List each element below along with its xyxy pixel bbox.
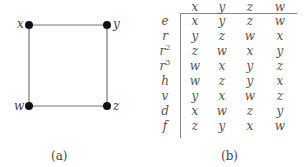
- table-cell: x: [185, 105, 205, 117]
- caption-b: (b): [221, 150, 238, 162]
- table-cell: x: [185, 15, 205, 27]
- table-cell: z: [212, 75, 232, 87]
- column-header: y: [212, 1, 232, 13]
- square-graph: x y z w (a): [0, 0, 150, 167]
- row-label: d: [155, 105, 175, 117]
- column-header: z: [240, 1, 260, 13]
- node-x: [25, 21, 33, 29]
- table-cell: z: [240, 15, 260, 27]
- row-label: h: [155, 75, 175, 87]
- row-label: r2: [155, 45, 175, 57]
- table-cell: y: [240, 60, 260, 72]
- table-cell: z: [270, 60, 290, 72]
- table-cell: w: [270, 120, 290, 132]
- node-label-w: w: [14, 100, 24, 112]
- table-cell: z: [212, 30, 232, 42]
- row-label: e: [155, 15, 175, 27]
- table-cell: x: [240, 120, 260, 132]
- node-y: [103, 21, 111, 29]
- table-cell: y: [240, 75, 260, 87]
- caption-a: (a): [51, 150, 68, 162]
- node-label-x: x: [17, 18, 24, 30]
- table-cell: x: [212, 90, 232, 102]
- column-header: w: [270, 1, 290, 13]
- row-label-base: r: [162, 29, 168, 43]
- table-cell: w: [270, 15, 290, 27]
- table-cell: z: [185, 120, 205, 132]
- row-label-exponent: 2: [165, 43, 170, 52]
- table-cell: y: [185, 90, 205, 102]
- table-cell: w: [240, 90, 260, 102]
- table-cell: y: [212, 120, 232, 132]
- table-cell: x: [240, 45, 260, 57]
- table-cell: w: [185, 75, 205, 87]
- row-label: r3: [155, 60, 175, 72]
- node-label-y: y: [113, 18, 120, 30]
- row-label-base: h: [161, 74, 169, 88]
- table-cell: y: [270, 105, 290, 117]
- row-label: f: [155, 120, 175, 132]
- row-label-base: d: [161, 104, 169, 118]
- row-label-exponent: 3: [165, 58, 170, 67]
- node-z: [103, 102, 111, 110]
- table-cell: x: [212, 60, 232, 72]
- table-cell: y: [185, 30, 205, 42]
- table-cell: y: [212, 15, 232, 27]
- table-cell: z: [270, 90, 290, 102]
- table-cell: w: [185, 60, 205, 72]
- row-label: v: [155, 90, 175, 102]
- column-header: x: [185, 1, 205, 13]
- row-label-base: v: [162, 89, 169, 103]
- table-cell: z: [240, 105, 260, 117]
- table-cell: w: [212, 105, 232, 117]
- table-cell: w: [212, 45, 232, 57]
- row-label: r: [155, 30, 175, 42]
- row-label-base: e: [161, 14, 168, 28]
- table-cell: w: [240, 30, 260, 42]
- table-cell: y: [270, 45, 290, 57]
- table-cell: x: [270, 75, 290, 87]
- permutation-table: x y z w exyzwryzwxr2zwxyr3wxyzhwzyxvyxwz…: [150, 0, 307, 167]
- label-rule: [180, 13, 181, 138]
- node-w: [25, 102, 33, 110]
- table-cell: x: [270, 30, 290, 42]
- row-label-base: f: [163, 119, 167, 133]
- node-label-z: z: [113, 100, 119, 112]
- table-cell: z: [185, 45, 205, 57]
